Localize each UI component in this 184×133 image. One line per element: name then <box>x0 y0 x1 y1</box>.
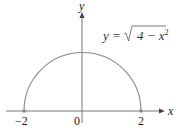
x-axis-label: x <box>168 105 173 117</box>
semicircle-curve <box>24 53 141 111</box>
endpoint-left <box>22 109 26 113</box>
equation-lhs: y = <box>103 28 124 43</box>
x-axis-arrow-icon <box>159 109 165 114</box>
y-axis-label: y <box>79 0 84 12</box>
equation-label: y = 4 − x2 <box>103 28 169 44</box>
tick-label-2: 2 <box>138 115 144 127</box>
tick-label-neg2: −2 <box>15 115 28 127</box>
equation-exponent: 2 <box>165 28 169 37</box>
endpoint-right <box>139 109 143 113</box>
tick-label-0: 0 <box>74 115 80 127</box>
equation-rhs: 4 − x <box>137 28 165 43</box>
